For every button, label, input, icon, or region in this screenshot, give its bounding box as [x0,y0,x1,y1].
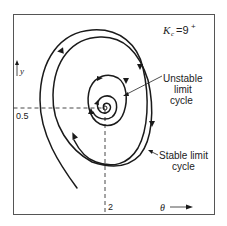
right-arrow-icon [186,205,193,210]
svg-text:c: c [171,30,175,38]
inner-spiral [93,96,117,119]
x-tick-label: 2 [108,202,113,212]
trajectory-outer [40,30,147,188]
svg-text:y: y [19,66,24,76]
svg-text:Unstable: Unstable [163,73,203,84]
leader-arrow-icon [148,150,153,154]
svg-text:=9: =9 [176,24,189,36]
unstable-leader-line [125,76,162,95]
y-tick-label: 0.5 [16,111,29,121]
unstable-annotation: Unstable limit cycle [123,73,203,106]
phase-plane-diagram: K c =9 + y θ 0.5 2 Uns [0,0,227,226]
stable-annotation: Stable limit cycle [148,150,208,172]
svg-text:cycle: cycle [172,161,195,172]
y-axis-indicator: y [15,60,24,76]
svg-text:cycle: cycle [170,95,193,106]
svg-text:θ: θ [160,202,165,213]
svg-text:Stable limit: Stable limit [159,150,208,161]
parameter-label: K c =9 + [162,22,196,38]
svg-text:+: + [191,22,196,31]
x-axis-indicator: θ [160,202,193,213]
up-arrow-icon [15,60,19,65]
svg-text:K: K [162,24,171,36]
svg-text:limit: limit [174,84,192,95]
